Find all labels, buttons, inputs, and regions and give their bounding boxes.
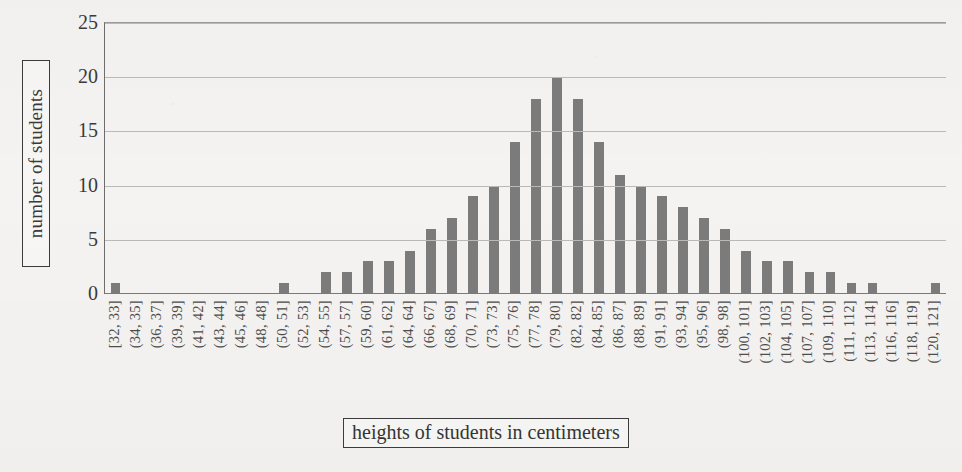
y-axis-tick-label: 10 <box>54 175 98 195</box>
histogram-bar <box>363 261 373 294</box>
histogram-bar <box>321 272 331 294</box>
x-axis-tick-label: (64, 64] <box>401 300 416 348</box>
x-axis-tick-label: (113, 114] <box>863 300 878 362</box>
x-axis-tick-label: (102, 103] <box>758 300 773 363</box>
histogram-bar <box>762 261 772 294</box>
x-axis-tick-label: (107, 107] <box>800 300 815 363</box>
x-axis-tick-label: (54, 55] <box>317 300 332 348</box>
x-axis-tick-label: (84, 85] <box>590 300 605 348</box>
x-axis-tick-label: (36, 37] <box>149 300 164 348</box>
x-axis-tick-label: (70, 71] <box>464 300 479 348</box>
x-axis-tick-label: (52, 53] <box>296 300 311 348</box>
x-axis-tick-label: (57, 57] <box>338 300 353 348</box>
x-axis-tick-label: (45, 46] <box>233 300 248 348</box>
x-axis-tick-label: (104, 105] <box>779 300 794 363</box>
x-axis-tick-label: (59, 60] <box>359 300 374 348</box>
gridline <box>105 240 946 241</box>
x-axis-tick-label: (86, 87] <box>611 300 626 348</box>
histogram-bar <box>678 207 688 294</box>
gridline <box>105 131 946 132</box>
x-axis-tick-label: (98, 98] <box>716 300 731 348</box>
x-axis-tick-label: (39, 39] <box>170 300 185 348</box>
histogram-bar <box>826 272 836 294</box>
histogram-bar <box>342 272 352 294</box>
x-axis-tick-labels: [32, 33](34, 35](36, 37](39, 39](41, 42]… <box>104 300 946 408</box>
x-axis-tick-label: (34, 35] <box>128 300 143 348</box>
x-axis-tick-label: (93, 94] <box>674 300 689 348</box>
histogram-bar <box>657 196 667 294</box>
histogram-bar <box>805 272 815 294</box>
x-axis-tick-label: (120, 121] <box>926 300 941 363</box>
x-axis-tick-label: (48, 48] <box>254 300 269 348</box>
x-axis-tick-label: (68, 69] <box>443 300 458 348</box>
y-axis-tick-label: 25 <box>54 12 98 32</box>
x-axis-tick-label: (66, 67] <box>422 300 437 348</box>
x-axis-tick-label: [32, 33] <box>107 300 122 348</box>
x-axis-tick-label: (91, 91] <box>653 300 668 348</box>
histogram-bar <box>468 196 478 294</box>
y-axis-tick-label: 0 <box>54 283 98 303</box>
y-axis-tick-label: 15 <box>54 120 98 140</box>
x-axis-tick-label: (73, 73] <box>485 300 500 348</box>
x-axis-tick-label: (100, 101] <box>737 300 752 363</box>
gridline <box>105 23 946 24</box>
bar-series <box>105 23 946 294</box>
x-axis-tick-label: (43, 44] <box>212 300 227 348</box>
histogram-bar <box>447 218 457 294</box>
gridline <box>105 186 946 187</box>
y-axis-tick-label: 5 <box>54 229 98 249</box>
x-axis-line <box>105 293 946 294</box>
histogram-bar <box>531 99 541 294</box>
histogram-bar <box>426 229 436 294</box>
histogram-bar <box>573 99 583 294</box>
gridline <box>105 77 946 78</box>
histogram-bar <box>741 251 751 294</box>
x-axis-tick-label: (82, 82] <box>569 300 584 348</box>
histogram-bar <box>720 229 730 294</box>
x-axis-tick-label: (118, 119] <box>905 300 920 362</box>
histogram-bar <box>510 142 520 294</box>
y-axis-tick-labels: 0510152025 <box>50 0 98 472</box>
x-axis-tick-label: (111, 112] <box>842 300 857 362</box>
histogram-bar <box>594 142 604 294</box>
x-axis-tick-label: (95, 96] <box>695 300 710 348</box>
x-axis-title: heights of students in centimeters <box>343 418 629 448</box>
plot-area <box>104 22 946 294</box>
histogram-bar <box>405 251 415 294</box>
y-axis-title-label: number of students <box>25 89 47 238</box>
y-axis-tick-label: 20 <box>54 66 98 86</box>
x-axis-tick-label: (61, 62] <box>380 300 395 348</box>
x-axis-tick-label: (41, 42] <box>191 300 206 348</box>
histogram-bar <box>384 261 394 294</box>
histogram-bar <box>615 175 625 294</box>
histogram-bar <box>783 261 793 294</box>
histogram-chart: number of students 0510152025 [32, 33](3… <box>0 0 962 472</box>
x-axis-tick-label: (75, 76] <box>506 300 521 348</box>
x-axis-tick-label: (109, 110] <box>821 300 836 363</box>
x-axis-tick-label: (79, 80] <box>548 300 563 348</box>
x-axis-title-label: heights of students in centimeters <box>352 421 620 443</box>
x-axis-tick-label: (88, 89] <box>632 300 647 348</box>
histogram-bar <box>699 218 709 294</box>
y-axis-title: number of students <box>22 60 50 267</box>
x-axis-tick-label: (116, 116] <box>884 300 899 362</box>
x-axis-tick-label: (50, 51] <box>275 300 290 348</box>
x-axis-tick-label: (77, 78] <box>527 300 542 348</box>
